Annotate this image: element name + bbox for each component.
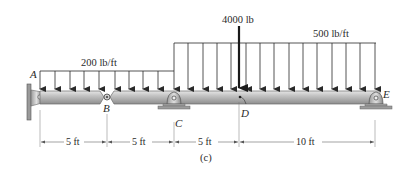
distributed-load-200: 200 lb/ft <box>40 57 174 89</box>
point-label-e: E <box>382 88 390 100</box>
beam-segment-be <box>110 91 380 104</box>
load-label-200: 200 lb/ft <box>81 57 117 68</box>
point-label-d: D <box>240 107 249 119</box>
point-label-b: B <box>103 102 110 114</box>
load-label-4000: 4000 lb <box>222 14 254 25</box>
figure-caption: (c) <box>200 152 212 164</box>
dimension-label-bc: 5 ft <box>132 136 146 147</box>
beam-diagram: 200 lb/ft 500 lb/ft 4000 lb A B C <box>0 0 418 176</box>
point-load-4000: 4000 lb <box>222 14 254 88</box>
distributed-load-500: 500 lb/ft <box>174 28 376 89</box>
dimension-label-ab: 5 ft <box>66 136 80 147</box>
dimension-label-cd: 5 ft <box>198 136 212 147</box>
point-label-a: A <box>29 68 37 80</box>
load-label-500: 500 lb/ft <box>313 28 349 39</box>
beam-segment-ab <box>40 91 104 104</box>
point-label-c: C <box>175 117 183 129</box>
internal-pin-b <box>104 94 110 100</box>
dimension-label-de: 10 ft <box>296 136 315 147</box>
